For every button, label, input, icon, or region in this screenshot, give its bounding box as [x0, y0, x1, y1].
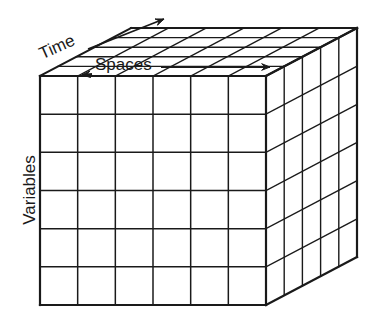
variables-axis-label: Variables [21, 155, 38, 225]
side-grid-depth [266, 257, 357, 305]
side-grid-depth [266, 28, 357, 76]
side-grid-depth [266, 104, 357, 152]
side-grid-depth [266, 181, 357, 229]
top-grid-depth [228, 28, 319, 76]
time-arrow [88, 19, 164, 49]
top-grid-depth [153, 28, 244, 76]
side-grid-depth [266, 219, 357, 267]
side-grid-depth [266, 143, 357, 191]
side-grid-depth [266, 66, 357, 114]
spaces-axis-label: Spaces [95, 56, 152, 73]
top-grid-depth [191, 28, 282, 76]
